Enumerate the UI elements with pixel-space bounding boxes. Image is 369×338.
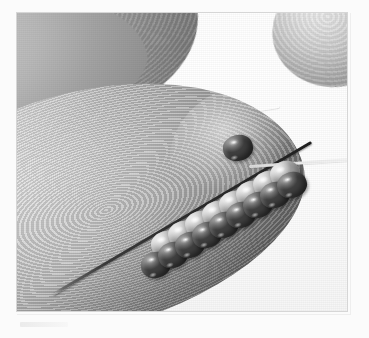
bead-specular-highlight [281,174,294,185]
bead-specular-highlight [162,244,175,255]
bead-secondary-highlight [165,262,174,269]
bead-secondary-highlight [233,222,242,229]
bead-secondary-highlight [199,242,208,249]
bead-secondary-highlight [182,252,191,259]
bead-dark-18 [220,132,255,164]
bead-secondary-highlight [267,202,276,209]
bead-specular-highlight [179,234,192,245]
seed-bead-cluster [55,113,315,293]
bead-secondary-highlight [250,212,259,219]
bead-secondary-highlight [148,272,157,279]
bead-specular-highlight [145,254,158,265]
bead-specular-highlight [228,137,240,147]
bead-specular-highlight [213,214,226,225]
photo-frame [16,12,348,312]
page-canvas [0,0,369,338]
bead-secondary-highlight [284,192,293,199]
bead-specular-highlight [230,204,243,215]
bead-specular-highlight [264,184,277,195]
page-smudge-artifact [20,322,68,327]
bead-secondary-highlight [230,155,239,161]
bead-secondary-highlight [216,232,225,239]
bead-specular-highlight [247,194,260,205]
beading-photograph [17,13,347,311]
bead-specular-highlight [196,224,209,235]
